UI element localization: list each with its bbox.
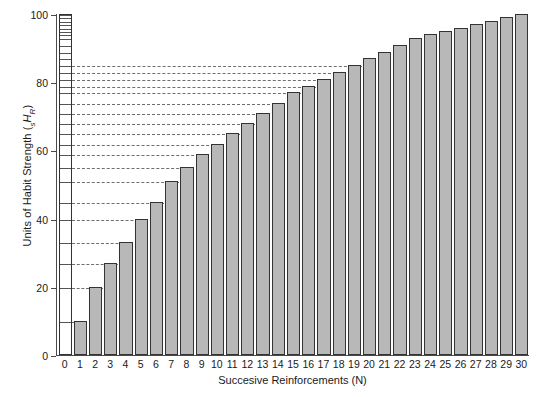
bar <box>74 321 87 355</box>
bar <box>470 24 483 355</box>
chart-figure: Units of Habit Strength (sHR) 0204060801… <box>0 0 554 397</box>
x-axis-tick-label: 15 <box>287 358 299 370</box>
bar <box>119 242 132 355</box>
y-axis-tick-mark <box>51 15 56 16</box>
bar <box>241 123 254 355</box>
unit-column-segment <box>60 15 71 16</box>
x-axis-tick-label: 7 <box>168 358 174 370</box>
y-axis-tick-label: 80 <box>36 78 48 88</box>
bar <box>196 154 209 355</box>
bar <box>439 31 452 355</box>
bar <box>363 58 376 355</box>
bar <box>424 34 437 355</box>
x-axis-tick-label: 8 <box>183 358 189 370</box>
x-axis-tick-label: 26 <box>455 358 467 370</box>
bar <box>302 86 315 355</box>
x-axis-title: Succesive Reinforcements (N) <box>56 374 529 386</box>
bar <box>89 287 102 355</box>
unit-column-segment <box>60 80 71 81</box>
y-axis-tick-labels: 020406080100 <box>22 0 48 397</box>
x-axis-tick-label: 30 <box>516 358 528 370</box>
bar <box>409 38 422 355</box>
unit-column-segment <box>60 93 71 94</box>
y-axis-tick-mark <box>51 220 56 221</box>
unit-column-segment <box>60 46 71 47</box>
x-axis-tick-label: 2 <box>92 358 98 370</box>
x-axis-tick-label: 3 <box>107 358 113 370</box>
unit-column-segment <box>60 53 71 54</box>
unit-column-segment <box>60 264 71 265</box>
x-axis-tick-label: 1 <box>77 358 83 370</box>
y-axis-tick-mark <box>51 356 56 357</box>
bar <box>211 144 224 355</box>
x-axis-tick-label: 21 <box>379 358 391 370</box>
x-axis-tick-label: 25 <box>439 358 451 370</box>
unit-column-segment <box>60 134 71 135</box>
unit-column-segment <box>60 66 71 67</box>
unit-column-segment <box>60 39 71 40</box>
x-axis-tick-label: 18 <box>333 358 345 370</box>
bar <box>378 52 391 355</box>
x-axis-tick-label: 11 <box>227 358 238 370</box>
unit-column-segment <box>60 322 71 323</box>
unit-column-segment <box>60 87 71 88</box>
bar <box>287 92 300 355</box>
y-axis-tick-label: 60 <box>36 146 48 156</box>
x-axis-tick-label: 29 <box>500 358 512 370</box>
x-axis-tick-label: 14 <box>272 358 284 370</box>
x-axis-tick-label: 23 <box>409 358 421 370</box>
bar <box>454 28 467 355</box>
bar <box>226 133 239 355</box>
y-axis-tick-label: 0 <box>42 351 48 361</box>
unit-reference-column <box>59 14 72 355</box>
unit-column-segment <box>60 35 71 36</box>
x-axis-tick-label: 4 <box>123 358 129 370</box>
x-axis-line <box>56 355 529 356</box>
bar <box>317 79 330 355</box>
y-axis-tick-mark <box>51 151 56 152</box>
x-axis-tick-label: 16 <box>302 358 314 370</box>
unit-column-segment <box>60 73 71 74</box>
bar <box>333 72 346 355</box>
bar <box>165 181 178 355</box>
unit-column-segment <box>60 25 71 26</box>
bar <box>104 263 117 355</box>
bar <box>272 103 285 355</box>
y-axis-tick-label: 40 <box>36 215 48 225</box>
unit-column-segment <box>60 59 71 60</box>
x-axis-tick-label: 27 <box>470 358 482 370</box>
unit-column-segment <box>60 168 71 169</box>
x-axis-tick-label: 0 <box>62 358 68 370</box>
x-axis-tick-label: 28 <box>485 358 497 370</box>
y-axis-tick-mark <box>51 288 56 289</box>
x-axis-tick-label: 22 <box>394 358 406 370</box>
unit-column-segment <box>60 145 71 146</box>
bar <box>500 17 513 355</box>
x-axis-tick-labels: 0123456789101112131415161718192021222324… <box>56 358 529 374</box>
bar <box>515 14 528 355</box>
x-axis-tick-label: 5 <box>138 358 144 370</box>
unit-column-segment <box>60 288 71 289</box>
x-axis-tick-label: 10 <box>211 358 223 370</box>
unit-column-segment <box>60 32 71 33</box>
unit-column-segment <box>60 182 71 183</box>
bar <box>256 113 269 355</box>
y-axis-tick-label: 100 <box>30 10 48 20</box>
x-axis-tick-label: 17 <box>318 358 330 370</box>
unit-column-segment <box>60 29 71 30</box>
bar <box>180 167 193 355</box>
bar <box>485 21 498 355</box>
unit-column-segment <box>60 220 71 221</box>
bar <box>348 65 361 355</box>
unit-column-segment <box>60 124 71 125</box>
y-axis-tick-label: 20 <box>36 283 48 293</box>
x-axis-tick-label: 20 <box>363 358 375 370</box>
unit-column-segment <box>60 18 71 19</box>
y-axis-tick-mark <box>51 83 56 84</box>
x-axis-tick-label: 12 <box>241 358 253 370</box>
unit-column-segment <box>60 22 71 23</box>
bar-series <box>57 14 529 355</box>
x-axis-tick-label: 19 <box>348 358 360 370</box>
x-axis-tick-label: 6 <box>153 358 159 370</box>
x-axis-tick-label: 9 <box>199 358 205 370</box>
